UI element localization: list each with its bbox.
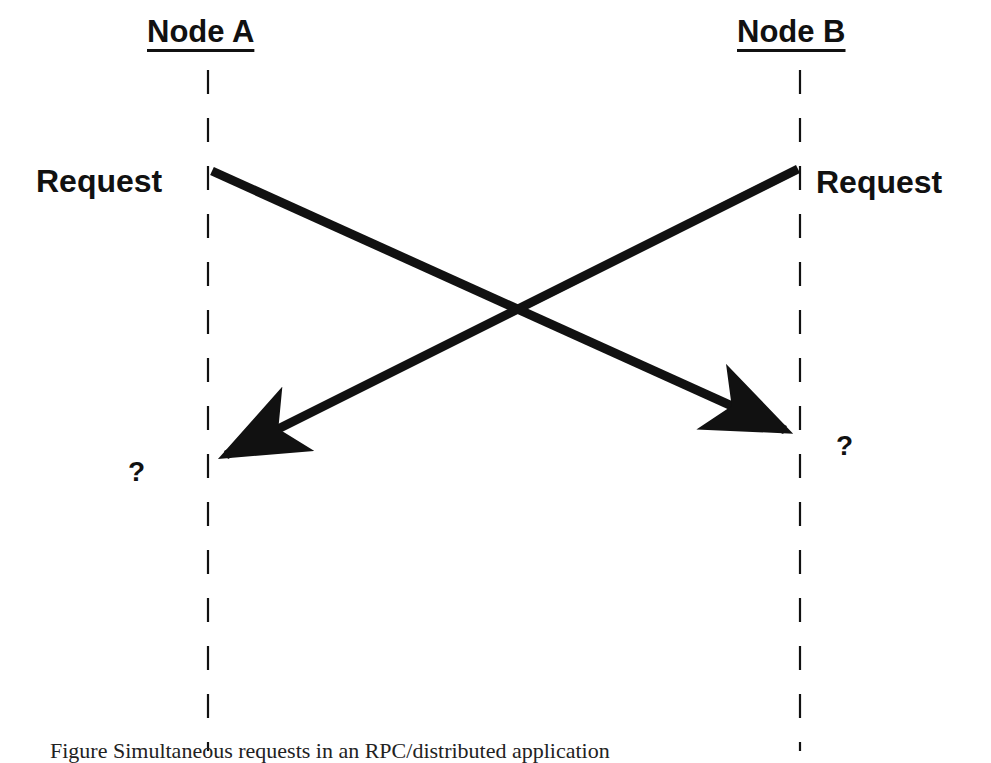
node-b-request-label: Request [816, 166, 942, 198]
node-a-title: Node A [147, 16, 254, 47]
node-a-result-question-mark: ? [128, 458, 145, 486]
node-b-result-question-mark: ? [836, 432, 853, 460]
node-a-request-label: Request [36, 165, 162, 197]
figure-caption: Figure Simultaneous requests in an RPC/d… [50, 740, 610, 762]
message-arrow-a-to-b [212, 171, 785, 430]
node-b-title: Node B [737, 16, 846, 47]
